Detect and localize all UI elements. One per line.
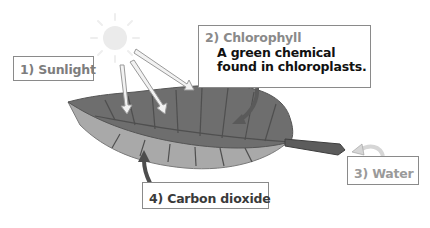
- label-chlorophyll: 2) Chlorophyll A green chemical found in…: [198, 25, 371, 88]
- label-water: 3) Water: [347, 156, 419, 185]
- sun-icon: [91, 14, 139, 62]
- leaf-stem: [285, 139, 345, 155]
- label-chlorophyll-desc-line1: A green chemical: [205, 46, 364, 60]
- label-carbon-dioxide-title: 4) Carbon dioxide: [149, 191, 271, 206]
- label-chlorophyll-title: 2) Chlorophyll: [205, 30, 364, 46]
- label-chlorophyll-desc-line2: found in chloroplasts.: [205, 60, 364, 74]
- label-sunlight-title: 1) Sunlight: [20, 62, 96, 77]
- carbon-dioxide-arrow: [144, 160, 150, 183]
- label-carbon-dioxide: 4) Carbon dioxide: [142, 182, 269, 209]
- label-water-title: 3) Water: [354, 166, 414, 181]
- label-sunlight: 1) Sunlight: [13, 56, 94, 81]
